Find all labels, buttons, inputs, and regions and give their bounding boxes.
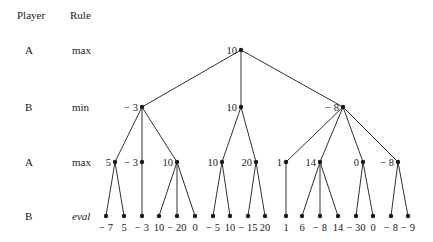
tree-edge (222, 162, 230, 216)
max-node-4-dot (254, 160, 258, 164)
max-node-7-dot (361, 160, 365, 164)
tree-edge (320, 107, 343, 162)
tree-edge (142, 50, 241, 107)
tree-edge (398, 162, 408, 216)
tree-edge (391, 162, 398, 216)
tree-edge (343, 107, 363, 162)
leaf-node-7-dot (228, 214, 232, 218)
tree-edge (363, 162, 373, 216)
leaf-node-5-dot (193, 214, 197, 218)
min-node-2-dot (341, 105, 345, 109)
max-node-8-value: − 8 (380, 157, 394, 168)
leaf-node-0-value: − 7 (99, 222, 113, 233)
tree-edge (241, 50, 343, 107)
max-node-4-value: 20 (242, 157, 253, 168)
max-node-2-value: 10 (163, 157, 174, 168)
leaf-node-15-dot (371, 214, 375, 218)
leaf-node-3-dot (157, 214, 161, 218)
max-node-0-dot (113, 160, 117, 164)
min-node-0-dot (140, 105, 144, 109)
min-node-2-value: − 8 (325, 102, 339, 113)
tree-edge (320, 162, 338, 216)
tree-nodes: 10− 310− 85− 31010201140− 8− 75− 310− 20… (99, 45, 415, 234)
leaf-node-14-dot (354, 214, 358, 218)
leaf-node-17-dot (406, 214, 410, 218)
tree-edge (241, 107, 256, 162)
tree-edge (159, 162, 177, 216)
max-node-7-value: 0 (354, 157, 359, 168)
leaf-node-0-dot (104, 214, 108, 218)
leaf-node-5-value: 0 (192, 222, 197, 233)
tree-edge (177, 162, 195, 216)
tree-edge (115, 107, 142, 162)
leaf-node-16-dot (389, 214, 393, 218)
tree-edges (106, 50, 408, 216)
root-node-dot (239, 48, 243, 52)
tree-edge (106, 162, 115, 216)
leaf-node-10-value: 1 (283, 222, 288, 233)
max-node-3-value: 10 (208, 157, 219, 168)
leaf-node-7-value: 10 (225, 222, 236, 233)
tree-edge (356, 162, 363, 216)
tree-edge (115, 162, 124, 216)
leaf-node-8-value: − 15 (238, 222, 257, 233)
leaf-node-9-value: 20 (260, 222, 271, 233)
game-tree: 10− 310− 85− 31010201140− 8− 75− 310− 20… (0, 0, 433, 242)
max-node-8-dot (396, 160, 400, 164)
leaf-node-15-value: 0 (370, 222, 375, 233)
tree-edge (256, 162, 265, 216)
root-node-value: 10 (227, 45, 238, 56)
leaf-node-10-dot (284, 214, 288, 218)
max-node-6-value: 14 (306, 157, 317, 168)
leaf-node-2-value: − 3 (135, 222, 149, 233)
max-node-1-value: − 3 (124, 157, 138, 168)
tree-edge (142, 107, 177, 162)
leaf-node-13-value: 14 (333, 222, 344, 233)
leaf-node-1-value: 5 (121, 222, 126, 233)
leaf-node-12-value: − 8 (313, 222, 327, 233)
max-node-5-dot (284, 160, 288, 164)
leaf-node-11-value: 6 (299, 222, 304, 233)
min-node-0-value: − 3 (124, 102, 138, 113)
min-node-1-dot (239, 105, 243, 109)
tree-edge (286, 107, 343, 162)
leaf-node-4-value: − 20 (167, 222, 186, 233)
leaf-node-2-dot (140, 214, 144, 218)
tree-edge (213, 162, 222, 216)
tree-edge (343, 107, 398, 162)
leaf-node-9-dot (263, 214, 267, 218)
tree-edge (302, 162, 320, 216)
leaf-node-4-dot (175, 214, 179, 218)
max-node-1-dot (140, 160, 144, 164)
tree-edge (248, 162, 256, 216)
leaf-node-8-dot (246, 214, 250, 218)
leaf-node-14-value: − 30 (346, 222, 365, 233)
max-node-6-dot (318, 160, 322, 164)
min-node-1-value: 10 (227, 102, 238, 113)
leaf-node-12-dot (318, 214, 322, 218)
leaf-node-17-value: − 9 (401, 222, 415, 233)
leaf-node-6-dot (211, 214, 215, 218)
leaf-node-3-value: 10 (154, 222, 165, 233)
max-node-3-dot (220, 160, 224, 164)
leaf-node-16-value: − 8 (384, 222, 398, 233)
max-node-0-value: 5 (106, 157, 111, 168)
max-node-2-dot (175, 160, 179, 164)
leaf-node-1-dot (122, 214, 126, 218)
leaf-node-6-value: − 5 (206, 222, 220, 233)
tree-edge (222, 107, 241, 162)
leaf-node-13-dot (336, 214, 340, 218)
max-node-5-value: 1 (277, 157, 282, 168)
leaf-node-11-dot (300, 214, 304, 218)
